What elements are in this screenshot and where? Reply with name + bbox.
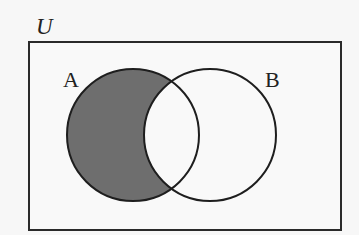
universe-label: U [36, 14, 54, 39]
set-b-label: B [265, 67, 280, 92]
venn-diagram: U A B [0, 0, 359, 235]
set-a-label: A [63, 67, 79, 92]
